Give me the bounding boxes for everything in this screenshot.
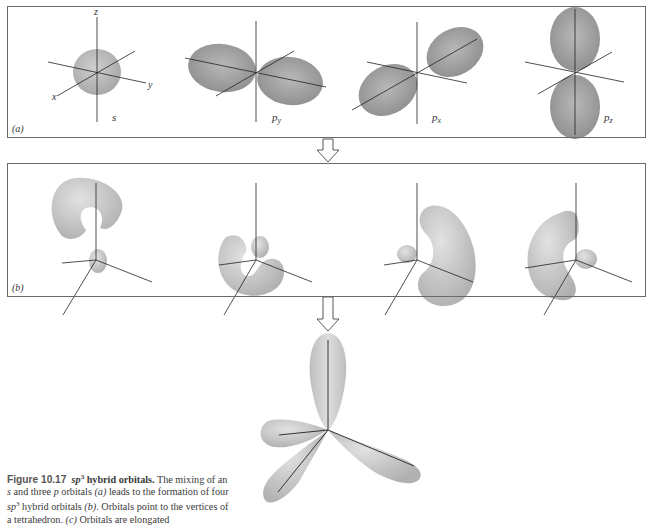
figure-title: sp3 hybrid orbitals. <box>72 474 155 485</box>
arrow-a-to-b <box>317 139 339 162</box>
caption-line1: The mixing of an <box>155 474 228 485</box>
panel-b-label: (b) <box>12 282 24 293</box>
caption-t3: leads to the formation of four <box>106 486 228 497</box>
caption-t4: hybrid orbitals <box>20 502 85 513</box>
figure-caption: Figure 10.17 sp3 hybrid orbitals. The mi… <box>7 471 262 526</box>
caption-ref-a: (a) <box>94 486 106 497</box>
title-rest: hybrid orbitals. <box>84 474 154 485</box>
caption-t6: a tetrahedron. <box>7 514 66 525</box>
panel-b: (b) <box>7 163 646 297</box>
caption-t5: . Orbitals point to the vertices of <box>96 502 228 513</box>
arrow-b-to-c <box>317 297 339 331</box>
caption-ref-c: (c) <box>66 514 77 525</box>
caption-ref-b: (b) <box>84 502 96 513</box>
panel-a-label: (a) <box>12 123 24 134</box>
caption-t1: and three <box>11 486 54 497</box>
caption-sp: sp <box>7 502 16 513</box>
panel-a: (a) <box>7 6 646 138</box>
caption-t2: orbitals <box>59 486 95 497</box>
figure-number: Figure 10.17 <box>7 474 66 485</box>
caption-t7: Orbitals are elongated <box>77 514 170 525</box>
tetrahedral-orbitals <box>261 333 421 503</box>
title-sp: sp <box>72 474 81 485</box>
